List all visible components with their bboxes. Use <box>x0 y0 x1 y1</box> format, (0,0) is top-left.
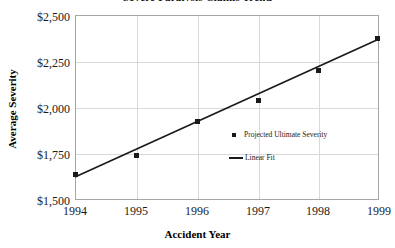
square-marker-icon <box>232 133 236 137</box>
data-point-1999 <box>375 36 380 41</box>
line-marker-icon <box>229 157 243 159</box>
chart-container: Severe Paralysis Claims Trend $2,500 $2,… <box>0 0 395 248</box>
x-tick-label: 1996 <box>167 205 227 217</box>
data-point-1994 <box>73 172 78 177</box>
data-point-1998 <box>316 68 321 73</box>
legend-item-projected-ultimate-severity: Projected Ultimate Severity <box>229 128 349 141</box>
x-tick-label: 1998 <box>288 205 348 217</box>
x-tick-label: 1994 <box>45 205 105 217</box>
data-point-1997 <box>256 98 261 103</box>
legend-label: Projected Ultimate Severity <box>244 130 327 139</box>
data-point-1995 <box>134 153 139 158</box>
x-tick-label: 1999 <box>349 205 395 217</box>
data-point-1996 <box>195 119 200 124</box>
legend-item-linear-fit: Linear Fit <box>229 151 349 164</box>
x-tick-label: 1995 <box>106 205 166 217</box>
legend-label: Linear Fit <box>245 153 275 162</box>
x-axis-title: Accident Year <box>0 228 395 240</box>
x-tick-label: 1997 <box>228 205 288 217</box>
chart-legend: Projected Ultimate Severity Linear Fit <box>229 128 349 174</box>
